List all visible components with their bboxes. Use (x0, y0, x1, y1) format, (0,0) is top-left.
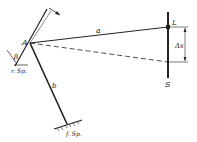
label-a-point: A (21, 38, 28, 47)
mirror-scale-diagram: A a b β L S Δs r. Sp. f. Sp. (0, 0, 197, 142)
label-fixed-mirror: f. Sp. (65, 130, 82, 138)
ray-b (30, 43, 67, 124)
label-lamp: L (171, 19, 177, 27)
label-distance-a: a (96, 26, 101, 35)
label-distance-b: b (52, 82, 57, 90)
movable-mirror-line-rotated (30, 11, 51, 43)
movable-mirror-line (15, 9, 47, 66)
ray-reflected-dashed (30, 43, 168, 62)
label-scale: S (165, 80, 171, 89)
label-movable-mirror: r. Sp. (11, 67, 27, 75)
lamp-marker (166, 25, 170, 29)
label-beta: β (13, 53, 18, 61)
label-delta-s: Δs (174, 42, 184, 50)
